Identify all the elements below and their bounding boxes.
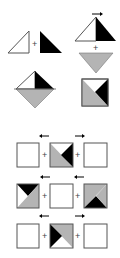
plus-sign: + <box>42 150 47 160</box>
white-triangle <box>8 31 29 53</box>
diamond-black-part <box>35 71 54 89</box>
step1-group: + <box>8 31 62 53</box>
plus-sign: + <box>75 191 80 201</box>
empty-square <box>50 184 73 208</box>
empty-square <box>17 143 39 167</box>
square-result <box>82 79 108 106</box>
plus-sign: + <box>32 39 37 49</box>
white-half-triangle <box>75 17 96 41</box>
arrow-left-icon <box>74 175 84 179</box>
empty-square <box>84 224 107 248</box>
arrow-left-icon <box>39 214 49 218</box>
plus-sign: + <box>75 231 80 241</box>
arrow-left-icon <box>40 175 50 179</box>
arrow-right-icon <box>75 134 85 138</box>
arrow-right-icon <box>75 214 85 218</box>
row-1: + + <box>17 134 107 167</box>
empty-square <box>17 224 39 248</box>
puzzle-diagram: + + + <box>0 0 120 258</box>
arrow-right-icon <box>92 12 103 16</box>
pattern-square <box>50 224 73 248</box>
diamond-result <box>14 71 56 108</box>
plus-sign: + <box>75 150 80 160</box>
black-half-triangle <box>96 17 116 41</box>
pattern-square <box>17 184 39 208</box>
arrow-left-icon <box>39 134 49 138</box>
diamond-gray-part <box>16 89 54 108</box>
empty-square <box>84 143 107 167</box>
black-triangle <box>40 31 62 53</box>
plus-sign: + <box>93 43 98 53</box>
pattern-square <box>50 143 73 167</box>
plus-sign: + <box>42 191 47 201</box>
row-3: + + <box>17 214 107 248</box>
step2-group: + <box>75 12 116 73</box>
row-2: + + <box>17 175 107 208</box>
gray-inverted-triangle <box>79 53 113 73</box>
diamond-white-part <box>16 71 35 89</box>
plus-sign: + <box>42 231 47 241</box>
pattern-square <box>84 184 107 208</box>
